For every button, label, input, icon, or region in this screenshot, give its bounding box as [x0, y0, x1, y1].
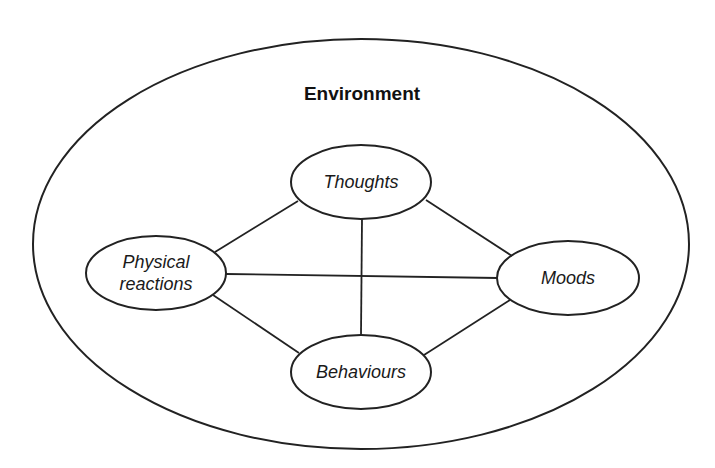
- edge-thoughts-behaviours: [361, 219, 362, 335]
- connections: [213, 200, 512, 355]
- thoughts-label: Thoughts: [323, 172, 398, 192]
- edge-thoughts-moods: [426, 200, 512, 256]
- node-physical-reactions: Physicalreactions: [86, 236, 226, 310]
- nodes: ThoughtsPhysicalreactionsMoodsBehaviours: [86, 145, 639, 409]
- environment-title: Environment: [304, 83, 421, 104]
- node-behaviours: Behaviours: [291, 335, 431, 409]
- physical-reactions-label: Physical: [122, 252, 190, 272]
- node-moods: Moods: [497, 241, 639, 315]
- behaviours-label: Behaviours: [316, 362, 406, 382]
- node-thoughts: Thoughts: [291, 145, 431, 219]
- moods-label: Moods: [541, 268, 595, 288]
- physical-reactions-label: reactions: [119, 274, 192, 294]
- physical-reactions-ellipse: [86, 236, 226, 310]
- edge-thoughts-physical-reactions: [215, 201, 298, 252]
- edge-physical-reactions-behaviours: [213, 295, 299, 353]
- edge-moods-behaviours: [424, 300, 510, 355]
- cbt-five-areas-diagram: Environment ThoughtsPhysicalreactionsMoo…: [0, 0, 715, 468]
